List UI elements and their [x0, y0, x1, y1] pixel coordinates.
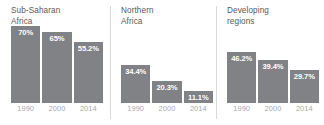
bar-value-label: 65%: [50, 34, 65, 43]
plot-area: 70% 65% 55.2%: [11, 26, 103, 103]
bar-value-label: 11.1%: [188, 93, 209, 102]
x-axis-tick: 2000: [42, 104, 71, 113]
x-axis-tick: 2000: [152, 104, 181, 113]
bar[interactable]: 70%: [11, 26, 40, 103]
bar-column: 46.2%: [227, 26, 256, 103]
x-axis-tick: 2000: [258, 104, 287, 113]
chart-panel-northern-africa: Northern Africa 34.4% 20.3% 11.1%: [110, 0, 216, 125]
x-axis-tick: 2014: [74, 104, 103, 113]
panel-title: Sub-Saharan Africa: [11, 6, 103, 27]
bar-column: 11.1%: [184, 26, 213, 103]
bar-column: 70%: [11, 26, 40, 103]
bar-value-label: 39.4%: [262, 62, 283, 71]
bar-value-label: 20.3%: [156, 83, 177, 92]
bar-column: 29.7%: [290, 26, 319, 103]
bar-value-label: 34.4%: [125, 67, 146, 76]
panel-divider: [110, 6, 111, 119]
x-axis: 1990 2000 2014: [11, 104, 103, 113]
panel-title: Developing regions: [227, 6, 319, 27]
bar-value-label: 46.2%: [231, 54, 252, 63]
bar-column: 65%: [42, 26, 71, 103]
panel-title: Northern Africa: [121, 6, 213, 27]
x-axis: 1990 2000 2014: [121, 104, 213, 113]
x-axis-tick: 2014: [184, 104, 213, 113]
x-axis-tick: 2014: [290, 104, 319, 113]
bar-value-label: 29.7%: [294, 72, 315, 81]
bar-value-label: 70%: [18, 28, 33, 37]
bar-column: 20.3%: [152, 26, 181, 103]
bar[interactable]: 39.4%: [258, 60, 287, 103]
x-axis-tick: 1990: [11, 104, 40, 113]
bar-group: 34.4% 20.3% 11.1%: [121, 26, 213, 103]
panel-divider: [216, 6, 217, 119]
bar[interactable]: 65%: [42, 32, 71, 104]
x-axis-tick: 1990: [227, 104, 256, 113]
bar-value-label: 55.2%: [78, 44, 99, 53]
bar-column: 39.4%: [258, 26, 287, 103]
x-axis: 1990 2000 2014: [227, 104, 319, 113]
bar[interactable]: 11.1%: [184, 91, 213, 103]
grouped-bar-chart: Sub-Saharan Africa 70% 65% 55.2%: [0, 0, 324, 125]
bar[interactable]: 29.7%: [290, 70, 319, 103]
plot-area: 34.4% 20.3% 11.1%: [121, 26, 213, 103]
bar-column: 55.2%: [74, 26, 103, 103]
bar-group: 46.2% 39.4% 29.7%: [227, 26, 319, 103]
bar[interactable]: 55.2%: [74, 42, 103, 103]
chart-panel-developing-regions: Developing regions 46.2% 39.4% 29.7%: [216, 0, 324, 125]
bar-group: 70% 65% 55.2%: [11, 26, 103, 103]
x-axis-tick: 1990: [121, 104, 150, 113]
bar[interactable]: 34.4%: [121, 65, 150, 103]
chart-panel-sub-saharan-africa: Sub-Saharan Africa 70% 65% 55.2%: [0, 0, 110, 125]
bar[interactable]: 46.2%: [227, 52, 256, 103]
bar-column: 34.4%: [121, 26, 150, 103]
plot-area: 46.2% 39.4% 29.7%: [227, 26, 319, 103]
bar[interactable]: 20.3%: [152, 81, 181, 103]
